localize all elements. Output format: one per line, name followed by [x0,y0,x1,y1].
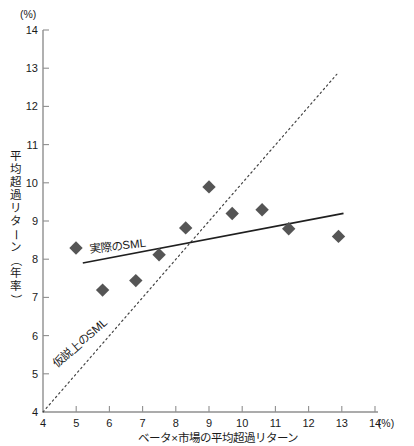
y-axis-ticks [43,30,49,374]
y-tick-label: 14 [26,24,38,36]
x-tick-label: 5 [73,417,79,429]
data-point-marker [179,221,192,234]
x-tick-label: 6 [106,417,112,429]
data-point-marker [129,274,142,287]
y-axis-title-char: ） [9,291,22,309]
actual-sml-line [83,213,344,263]
x-tick-label: 12 [302,417,314,429]
x-axis-tick-labels: 4 5 6 7 8 9 10 11 12 13 14 [40,417,381,429]
y-tick-label: 4 [32,406,38,418]
y-axis-tick-labels: 14 13 12 11 10 9 8 7 6 5 4 [26,24,38,418]
y-axis-title-char: ー [9,226,22,244]
data-point-marker [255,203,268,216]
data-point-marker [332,230,345,243]
y-axis-title-char: （ [9,252,22,270]
scatter-chart: 14 13 12 11 10 9 8 7 6 5 4 (%) [0,0,414,446]
y-tick-label: 7 [32,291,38,303]
y-tick-label: 12 [26,100,38,112]
y-axis-title: 平 均 超 過 リ タ ー ン （ 年 率 ） [6,150,24,306]
y-tick-label: 6 [32,330,38,342]
data-point-marker [202,180,215,193]
y-tick-label: 5 [32,368,38,380]
x-tick-label: 10 [236,417,248,429]
y-tick-label: 10 [26,177,38,189]
x-tick-label: 4 [40,417,46,429]
y-axis-title-char: 平 [6,150,24,163]
data-point-marker [69,241,82,254]
y-tick-label: 9 [32,215,38,227]
y-axis-title-char: 均 [6,163,24,176]
y-axis-unit-label: (%) [20,8,36,20]
y-axis-title-char: 超 [6,176,24,189]
hypothetical-sml-label: 仮説上のSML [50,315,110,370]
x-tick-label: 8 [173,417,179,429]
x-tick-label: 9 [206,417,212,429]
x-axis-ticks [76,406,375,412]
x-tick-label: 7 [140,417,146,429]
y-axis-title-char: リ [6,202,24,215]
x-axis-unit-label: (%) [378,417,394,429]
x-tick-label: 13 [336,417,348,429]
y-tick-label: 11 [27,139,38,151]
data-point-marker [96,283,109,296]
y-tick-label: 8 [32,253,38,265]
y-tick-label: 13 [26,62,38,74]
data-point-marker [226,207,239,220]
x-axis-title: ベータ×市場の平均超過リターン [138,431,298,444]
x-tick-label: 11 [270,417,281,429]
y-axis-title-char: 過 [6,189,24,202]
chart-canvas: 14 13 12 11 10 9 8 7 6 5 4 (%) [0,0,414,446]
